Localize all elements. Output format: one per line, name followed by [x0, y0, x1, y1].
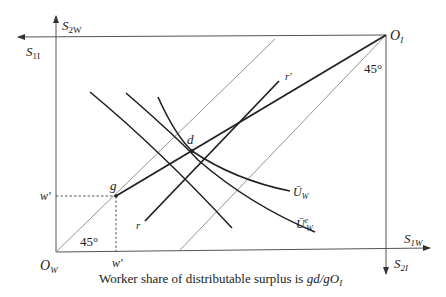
label-s1i: S1I	[26, 44, 40, 61]
label-s2i: S2I	[394, 256, 409, 273]
surplus-line-g-to-OI	[116, 35, 386, 196]
worker-horizontal-axis	[56, 248, 430, 252]
r-line	[145, 81, 279, 221]
point-d	[190, 149, 194, 153]
curve-left-straight	[90, 92, 232, 228]
curve-uw	[158, 97, 290, 191]
label-origin-worker: OW	[40, 258, 59, 275]
point-g	[114, 194, 118, 198]
label-uw: ŪW	[293, 185, 310, 201]
label-d: d	[187, 132, 194, 147]
worker-45-degree-line	[56, 39, 275, 252]
investor-horizontal-axis	[18, 35, 386, 37]
label-g: g	[110, 178, 117, 193]
label-w-prime-y: w'	[40, 189, 51, 203]
label-w-prime-x: w'	[112, 256, 123, 270]
label-uwe: ŪeW	[296, 216, 314, 233]
label-origin-investor: OI	[390, 28, 404, 45]
label-investor-angle: 45°	[364, 61, 382, 76]
label-worker-angle: 45°	[80, 234, 98, 249]
label-s1w: S1W	[404, 231, 424, 248]
label-s2w: S2W	[62, 18, 82, 35]
label-r: r	[136, 219, 141, 231]
edgeworth-box-diagram: S2W S1I OI 45° r' d g r ŪW ŪeW w' 45° w'…	[0, 0, 446, 297]
caption: Worker share of distributable surplus is…	[99, 271, 343, 288]
label-r-prime: r'	[285, 70, 292, 82]
